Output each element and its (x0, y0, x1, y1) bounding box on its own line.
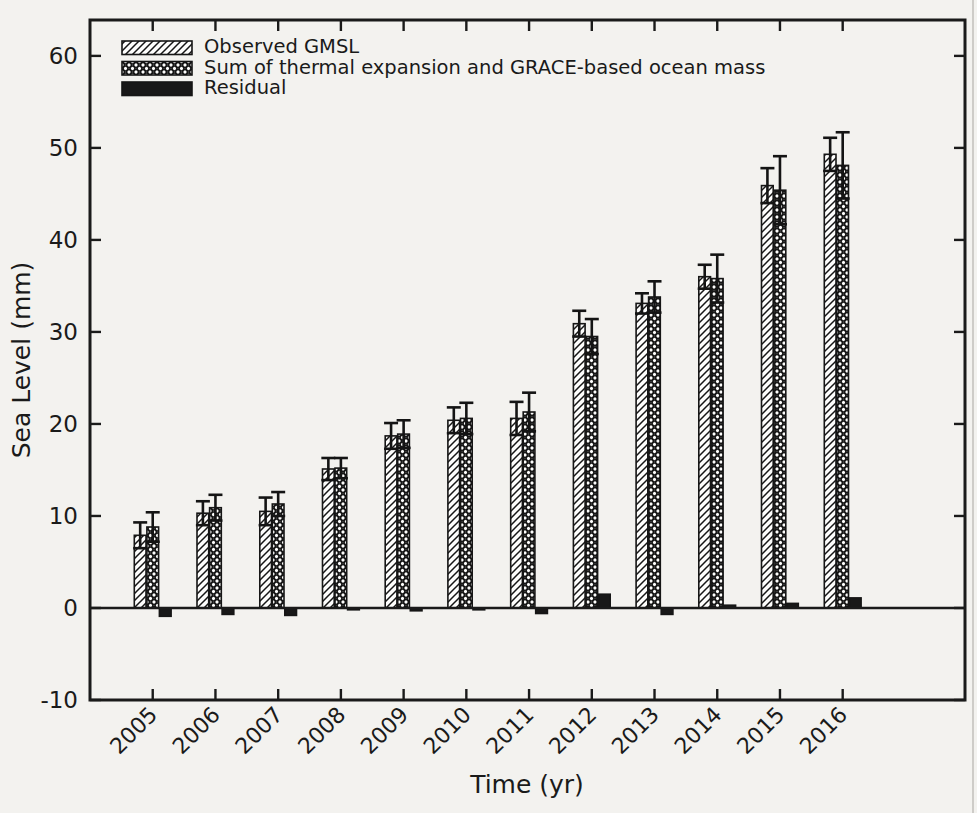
x-axis-title: Time (yr) (469, 770, 584, 799)
bar-residual-2012 (599, 594, 611, 608)
x-tick-label-2012: 2012 (544, 702, 601, 759)
y-axis-title: Sea Level (mm) (7, 262, 36, 459)
errorbars-layer (133, 132, 850, 548)
x-tick-label-2015: 2015 (732, 702, 789, 759)
y-tick-label-40: 40 (49, 227, 78, 253)
bar-sum-2010 (461, 418, 473, 608)
legend-swatch-diagonal-hatch-icon (122, 41, 192, 55)
legend-label-residual: Residual (204, 76, 286, 99)
bar-residual-2016 (849, 598, 861, 608)
tick-labels-layer: 2005200620072008200920102011201220132014… (40, 43, 852, 759)
sea-level-budget-bar-chart: 2005200620072008200920102011201220132014… (0, 0, 977, 813)
bar-observed-2015 (762, 186, 774, 608)
bar-observed-2011 (511, 418, 523, 608)
bar-observed-2008 (323, 469, 335, 608)
y-tick-label-50: 50 (49, 135, 78, 161)
y-tick-label--10: -10 (40, 687, 78, 713)
legend-label-sum: Sum of thermal expansion and GRACE-based… (204, 56, 765, 79)
bar-observed-2006 (197, 513, 209, 608)
y-tick-label-20: 20 (49, 411, 78, 437)
y-tick-label-0: 0 (63, 595, 78, 621)
bar-observed-2014 (699, 277, 711, 608)
x-tick-label-2016: 2016 (795, 702, 852, 759)
bar-observed-2013 (636, 303, 648, 608)
y-tick-label-60: 60 (49, 43, 78, 69)
bar-residual-2005 (159, 608, 171, 616)
x-tick-label-2010: 2010 (419, 702, 476, 759)
x-tick-label-2008: 2008 (293, 702, 350, 759)
x-tick-label-2005: 2005 (105, 702, 162, 759)
legend-swatch-solid-black-icon (122, 82, 192, 96)
bar-sum-2012 (586, 337, 598, 608)
bar-observed-2010 (448, 420, 460, 608)
x-tick-label-2014: 2014 (670, 702, 727, 759)
bar-observed-2009 (385, 436, 397, 608)
bar-observed-2016 (824, 154, 836, 608)
y-tick-label-30: 30 (49, 319, 78, 345)
bar-sum-2008 (335, 468, 347, 608)
bar-sum-2013 (649, 297, 661, 608)
legend-swatch-circle-hatch-icon (122, 62, 192, 76)
x-tick-label-2011: 2011 (481, 702, 538, 759)
legend: Observed GMSL Sum of thermal expansion a… (122, 35, 765, 99)
bar-sum-2011 (523, 412, 535, 608)
bar-sum-2006 (210, 508, 222, 608)
bar-observed-2012 (573, 324, 585, 608)
x-tick-label-2006: 2006 (168, 702, 225, 759)
bar-sum-2009 (398, 434, 410, 608)
bar-sum-2007 (272, 504, 284, 608)
bar-sum-2014 (711, 279, 723, 608)
x-tick-label-2013: 2013 (607, 702, 664, 759)
x-tick-label-2009: 2009 (356, 702, 413, 759)
bar-sum-2015 (774, 190, 786, 608)
bar-sum-2016 (837, 165, 849, 608)
legend-item-residual: Residual (122, 76, 286, 99)
bars-layer (134, 154, 861, 616)
y-tick-label-10: 10 (49, 503, 78, 529)
x-tick-label-2007: 2007 (230, 702, 287, 759)
scanned-book-page: 2005200620072008200920102011201220132014… (0, 0, 977, 813)
